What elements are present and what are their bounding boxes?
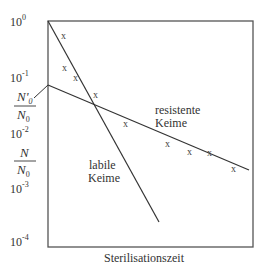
data-marker: x xyxy=(231,163,236,174)
data-marker: x xyxy=(62,62,67,73)
y-tick-10e-1: 10-1 xyxy=(10,69,29,85)
svg-text:N'0: N'0 xyxy=(16,89,32,106)
y-tick-10e-4: 10-4 xyxy=(10,233,29,249)
plot-frame xyxy=(48,21,253,247)
data-marker: x xyxy=(93,89,98,100)
resistant-label-line2: Keime xyxy=(155,116,187,130)
survival-curve-chart: 100 10-1 10-2 10-3 10-4 N'0 N0 N N0 x x … xyxy=(0,0,265,272)
data-marker: x xyxy=(165,138,170,149)
svg-text:N0: N0 xyxy=(16,162,30,179)
data-marker: x xyxy=(61,30,66,41)
y-tick-10e0: 100 xyxy=(10,13,26,29)
data-marker: x xyxy=(207,147,212,158)
labile-label-line2: Keime xyxy=(88,171,120,185)
svg-text:N: N xyxy=(19,145,30,160)
data-marker: x xyxy=(187,146,192,157)
resistant-label-line1: resistente xyxy=(155,103,200,117)
intercept-leader-line xyxy=(34,85,48,98)
data-marker: x xyxy=(123,118,128,129)
y-axis-fraction-label: N N0 xyxy=(14,145,36,179)
resistant-line xyxy=(48,85,249,170)
intercept-fraction-label: N'0 N0 xyxy=(14,89,36,124)
labile-line xyxy=(48,21,159,222)
svg-text:N0: N0 xyxy=(16,107,30,124)
y-tick-10e-3: 10-3 xyxy=(10,180,29,196)
labile-label-line1: labile xyxy=(89,158,116,172)
x-axis-label: Sterilisationszeit xyxy=(104,251,185,265)
data-marker: x xyxy=(73,72,78,83)
y-tick-10e-2: 10-2 xyxy=(10,125,29,141)
